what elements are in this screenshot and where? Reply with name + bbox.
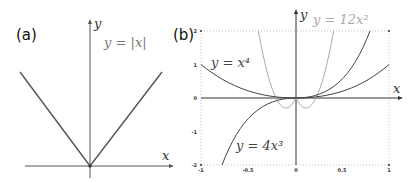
abs-curve	[20, 72, 162, 166]
figure: (a) y x y = |x| (b) 2 1 0 -1 -2 -1 -0.5 …	[0, 0, 420, 183]
equation-label: y = |x|	[103, 35, 147, 50]
origin-dot	[88, 164, 91, 167]
x-axis-label: x	[162, 148, 170, 163]
curve-label-4x3: y = 4x³	[235, 138, 283, 153]
curve-label-12x2: y = 12x²	[312, 12, 369, 27]
x-axis-arrow-icon	[398, 96, 403, 100]
x-axis-arrow-icon	[169, 164, 174, 168]
y-tick: -1	[191, 129, 197, 135]
x-tick: 0	[294, 167, 298, 173]
y-axis-label: y	[93, 16, 102, 31]
y-tick: 2	[194, 28, 198, 34]
y-axis-arrow-icon	[88, 19, 92, 24]
y-axis-label: y	[299, 7, 308, 22]
x-tick: 0.5	[338, 167, 347, 173]
panel-a-label: (a)	[16, 26, 37, 44]
x-axis-label: x	[393, 81, 401, 96]
curve-label-x4: y = x⁴	[210, 55, 250, 70]
panel-b: (b) 2 1 0 -1 -2 -1 -0.5 0 0.5 1 y x y = …	[173, 7, 403, 173]
y-axis-arrow-icon	[294, 9, 298, 14]
y-tick: -2	[191, 162, 197, 168]
y-tick: 1	[194, 62, 198, 68]
y-tick: 0	[194, 95, 198, 101]
panel-a: (a) y x y = |x|	[16, 16, 174, 178]
panel-b-label: (b)	[173, 26, 194, 44]
x-tick: -0.5	[243, 167, 254, 173]
x-tick: -1	[198, 167, 204, 173]
x-tick: 1	[387, 167, 391, 173]
